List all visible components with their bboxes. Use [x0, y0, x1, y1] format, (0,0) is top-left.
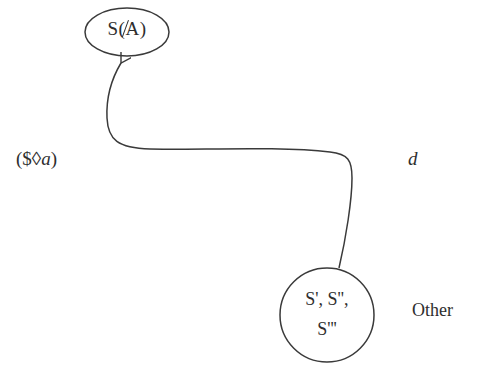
node-top-label-suffix: )	[140, 18, 147, 39]
right-annotation: d	[408, 148, 418, 170]
left-annotation-close: )	[51, 148, 57, 169]
left-annotation: ($◊a)	[16, 148, 57, 170]
node-top-label: S(A)	[92, 18, 162, 40]
node-bottom-label: S', S'', S'''	[282, 284, 372, 344]
negated-a-symbol: A	[125, 18, 139, 40]
variable-a: a	[41, 148, 51, 169]
dollar-symbol: $	[22, 148, 32, 169]
node-bottom-label-line1: S', S'',	[282, 284, 372, 314]
other-label: Other	[412, 300, 453, 321]
node-bottom-label-line2: S'''	[282, 314, 372, 344]
diamond-icon: ◊	[32, 148, 41, 169]
transition-arrow	[107, 63, 352, 268]
diagram-canvas	[0, 0, 479, 366]
